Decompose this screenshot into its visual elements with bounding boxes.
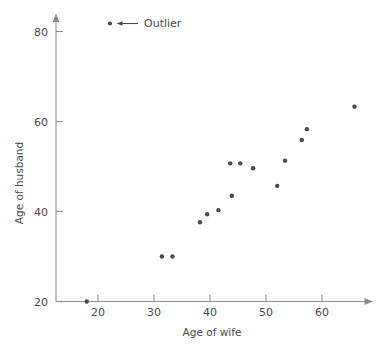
y-tick-label: 20 bbox=[34, 296, 48, 309]
y-tick-label: 60 bbox=[34, 116, 48, 129]
outlier-legend-label: Outlier bbox=[144, 17, 182, 30]
data-point bbox=[205, 212, 209, 216]
x-axis-arrow-icon bbox=[365, 298, 374, 305]
data-point bbox=[170, 254, 174, 258]
x-axis-ticks: 2030405060 bbox=[91, 295, 329, 320]
data-point bbox=[216, 208, 220, 212]
outlier-callout: Outlier bbox=[108, 17, 182, 30]
y-tick-label: 80 bbox=[34, 26, 48, 39]
x-axis-title: Age of wife bbox=[183, 326, 242, 338]
data-point bbox=[198, 220, 202, 224]
data-point bbox=[251, 166, 255, 170]
plot-canvas: 20406080 2030405060 Outlier Age of wife … bbox=[0, 0, 392, 353]
x-tick-label: 30 bbox=[147, 306, 161, 319]
y-axis bbox=[53, 14, 60, 302]
outlier-legend-marker-icon bbox=[108, 21, 112, 25]
x-tick-label: 20 bbox=[91, 306, 105, 319]
data-point-group bbox=[85, 104, 357, 303]
outlier-arrow-head-icon bbox=[117, 21, 123, 26]
x-tick-label: 50 bbox=[259, 306, 273, 319]
data-point bbox=[275, 184, 279, 188]
x-axis bbox=[56, 298, 373, 305]
data-point bbox=[160, 254, 164, 258]
data-point bbox=[238, 161, 242, 165]
data-point bbox=[283, 158, 287, 162]
scatter-plot-figure: 20406080 2030405060 Outlier Age of wife … bbox=[0, 0, 392, 353]
data-point bbox=[228, 161, 232, 165]
y-tick-label: 40 bbox=[34, 206, 48, 219]
x-tick-label: 40 bbox=[203, 306, 217, 319]
y-axis-title: Age of husband bbox=[13, 142, 25, 224]
data-point bbox=[305, 127, 309, 131]
data-point bbox=[230, 194, 234, 198]
y-axis-ticks: 20406080 bbox=[34, 26, 63, 309]
y-axis-arrow-icon bbox=[53, 14, 60, 23]
data-point bbox=[300, 138, 304, 142]
x-tick-label: 60 bbox=[315, 306, 329, 319]
data-point bbox=[85, 299, 89, 303]
data-point bbox=[352, 104, 356, 108]
